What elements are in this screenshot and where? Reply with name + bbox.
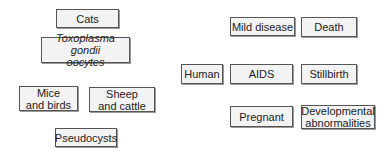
node-toxoplasma-oocytes: Toxoplasma gondii oocytes	[41, 37, 130, 63]
node-human: Human	[181, 64, 223, 84]
node-mild-disease: Mild disease	[230, 17, 295, 36]
node-aids: AIDS	[230, 64, 293, 84]
node-mice-and-birds: Mice and birds	[19, 86, 78, 111]
node-developmental-abnormalities: Developmental abnormalities	[301, 105, 375, 129]
node-pregnant: Pregnant	[230, 106, 293, 127]
node-cats: Cats	[56, 9, 119, 28]
node-death: Death	[301, 17, 357, 37]
node-sheep-and-cattle: Sheep and cattle	[89, 87, 155, 112]
node-pseudocysts: Pseudocysts	[55, 128, 117, 147]
node-stillbirth: Stillbirth	[301, 64, 357, 84]
